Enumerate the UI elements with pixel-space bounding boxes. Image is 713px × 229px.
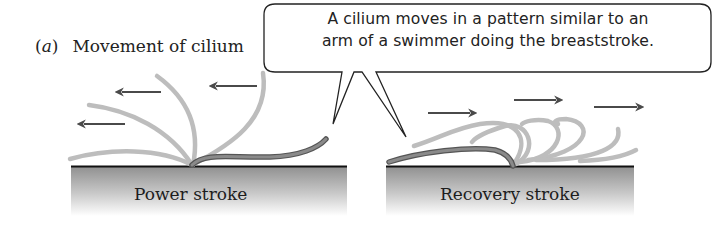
cilium-movement-figure: (a)Movement of cilium A cilium moves in …: [0, 0, 713, 229]
power-stroke-arrows: [84, 86, 257, 124]
recovery-stroke-arrows: [428, 100, 637, 113]
panel-letter: a: [42, 36, 52, 56]
panel-heading: (a)Movement of cilium: [35, 36, 244, 56]
recovery-stroke-ghost-cilia: [414, 119, 636, 164]
callout-text: A cilium moves in a pattern similar to a…: [263, 8, 713, 52]
power-stroke-label: Power stroke: [134, 184, 247, 204]
panel-title: Movement of cilium: [72, 36, 244, 56]
callout-line-2: arm of a swimmer doing the breaststroke.: [263, 30, 713, 52]
recovery-stroke-label: Recovery stroke: [440, 184, 580, 204]
callout-line-1: A cilium moves in a pattern similar to a…: [263, 8, 713, 30]
recovery-stroke-active-cilium-highlight: [389, 149, 513, 166]
